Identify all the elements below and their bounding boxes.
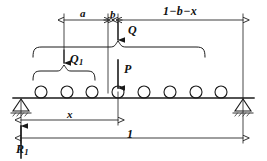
dimension-label-right-span: 1−b−x bbox=[163, 5, 197, 17]
reaction-label-R1: R1 bbox=[16, 143, 29, 157]
force-label-Q1: Q1 bbox=[70, 53, 84, 67]
wheel bbox=[215, 86, 227, 98]
wheel bbox=[138, 86, 150, 98]
brace-large bbox=[33, 41, 205, 57]
wheel bbox=[61, 86, 73, 98]
beam-load-diagram: a b 1−b−x Q Q1 P x 1 R1 bbox=[0, 0, 267, 161]
force-label-Q1-base: Q bbox=[70, 52, 79, 66]
dimension-label-b: b bbox=[110, 9, 116, 20]
wheel-group bbox=[35, 86, 227, 98]
wheel bbox=[164, 86, 176, 98]
wheel bbox=[35, 86, 47, 98]
dimension-label-a: a bbox=[80, 8, 86, 19]
force-label-Q: Q bbox=[128, 24, 137, 36]
wheel bbox=[86, 86, 98, 98]
dimension-label-x: x bbox=[67, 109, 73, 120]
force-label-P: P bbox=[124, 63, 132, 75]
wheel bbox=[190, 86, 202, 98]
force-label-Q1-subscript: 1 bbox=[79, 57, 84, 67]
brace-small bbox=[33, 65, 95, 80]
reaction-label-R1-subscript: 1 bbox=[24, 147, 29, 157]
dimension-label-length: 1 bbox=[127, 128, 133, 140]
